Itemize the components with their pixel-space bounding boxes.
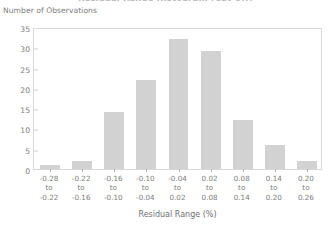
x-axis-tick-label-line: to [161,183,193,192]
bar [297,161,317,169]
bar [233,120,253,169]
x-axis-label: Residual Range (%) [33,210,322,219]
x-axis-tick-mark [114,169,115,172]
bar [201,51,221,169]
y-axis-tick-label: 20 [6,85,30,94]
y-axis-tick-label: 0 [6,167,30,176]
x-axis-tick-label: -0.04to0.02 [161,174,193,202]
x-axis-tick-mark [243,169,244,172]
x-axis-tick-mark [275,169,276,172]
x-axis-tick-label-line: 0.26 [290,193,322,202]
x-axis-tick-label-line: to [194,183,226,192]
x-axis-tick-label: -0.28to-0.22 [33,174,65,202]
chart-title: Residual Range Histogram (Cut Off) [0,0,331,1]
x-axis-tick-label-line: -0.22 [33,193,65,202]
x-axis-tick-label-line: to [226,183,258,192]
x-axis-tick-mark [146,169,147,172]
x-axis-tick-label-line: 0.20 [290,174,322,183]
x-axis-tick-label: 0.14to0.20 [258,174,290,202]
x-axis-tick-label: 0.02to0.08 [194,174,226,202]
x-axis-tick-label-line: -0.28 [33,174,65,183]
y-axis-tick-label: 35 [6,25,30,34]
x-axis-tick-mark [50,169,51,172]
x-axis-tick-label-line: -0.04 [129,193,161,202]
x-axis-tick-mark [211,169,212,172]
x-axis-tick-label-line: 0.14 [258,174,290,183]
y-axis-label: Number of Observations [3,6,97,15]
y-axis-tick-label: 30 [6,45,30,54]
bar [136,80,156,169]
x-axis-tick-label-line: -0.16 [65,193,97,202]
x-axis-tick-label-line: to [258,183,290,192]
x-axis-tick-label: -0.16to-0.10 [97,174,129,202]
x-axis-tick-label-line: 0.08 [226,174,258,183]
x-axis-tick-mark [179,169,180,172]
x-axis-tick-label-line: -0.22 [65,174,97,183]
x-axis-tick-labels: -0.28to-0.22-0.22to-0.16-0.16to-0.10-0.1… [33,174,322,204]
x-axis-tick-mark [307,169,308,172]
x-axis-tick-label: 0.20to0.26 [290,174,322,202]
x-axis-tick-label-line: -0.04 [161,174,193,183]
bar [265,145,285,169]
x-axis-tick-mark [82,169,83,172]
x-axis-tick-label: -0.22to-0.16 [65,174,97,202]
x-axis-tick-label-line: -0.10 [129,174,161,183]
y-axis-tick-label: 25 [6,65,30,74]
bar [72,161,92,169]
y-axis-tick-label: 10 [6,126,30,135]
x-axis-tick-label: 0.08to0.14 [226,174,258,202]
x-axis-tick-label-line: to [65,183,97,192]
histogram-figure: Residual Range Histogram (Cut Off) Numbe… [0,0,331,234]
x-axis-tick-label-line: 0.14 [226,193,258,202]
bar-series [34,29,321,169]
x-axis-tick-label-line: to [129,183,161,192]
plot-area: 05101520253035 [33,28,322,170]
y-axis-tick-label: 15 [6,106,30,115]
x-axis-tick-label-line: -0.10 [97,193,129,202]
x-axis-tick-label-line: 0.02 [161,193,193,202]
x-axis-tick-label-line: 0.02 [194,174,226,183]
x-axis-tick-label-line: 0.08 [194,193,226,202]
x-axis-tick-label-line: to [97,183,129,192]
bar [169,39,189,169]
y-axis-tick-label: 5 [6,146,30,155]
bar [104,112,124,169]
x-axis-tick-label-line: to [290,183,322,192]
x-axis-tick-label-line: -0.16 [97,174,129,183]
x-axis-tick-label: -0.10to-0.04 [129,174,161,202]
x-axis-tick-label-line: 0.20 [258,193,290,202]
x-axis-tick-label-line: to [33,183,65,192]
